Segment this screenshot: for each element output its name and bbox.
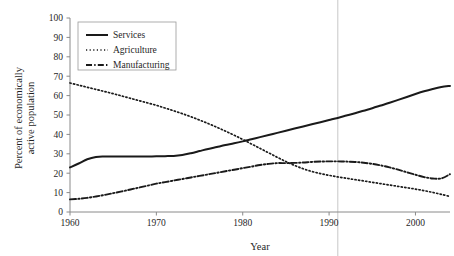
y-tick-label: 40	[54, 130, 64, 140]
y-tick-label: 60	[54, 91, 64, 101]
x-tick-label: 1980	[233, 218, 252, 228]
x-tick-label: 1970	[147, 218, 166, 228]
legend-label-manufacturing: Manufacturing	[113, 60, 170, 70]
legend-label-services: Services	[113, 30, 145, 40]
x-tick-label: 1990	[320, 218, 339, 228]
y-tick-label: 70	[54, 72, 64, 82]
x-tick-label: 2000	[406, 218, 425, 228]
chart-container: 0102030405060708090100 19601970198019902…	[0, 0, 454, 256]
y-tick-label: 50	[54, 110, 64, 120]
y-axis-title-line1: Percent of economically	[13, 66, 24, 169]
y-tick-label: 80	[54, 52, 64, 62]
y-tick-label: 30	[54, 149, 64, 159]
x-tick-label: 1960	[61, 218, 80, 228]
y-tick-label: 0	[58, 207, 63, 217]
line-chart: 0102030405060708090100 19601970198019902…	[0, 0, 454, 256]
y-tick-label: 20	[54, 169, 64, 179]
y-tick-label: 90	[54, 33, 64, 43]
chart-legend: ServicesAgricultureManufacturing	[78, 22, 176, 70]
x-axis-title: Year	[250, 241, 270, 252]
y-tick-label: 10	[54, 188, 64, 198]
y-tick-label: 100	[49, 13, 64, 23]
y-axis-title-line2: active population	[25, 81, 36, 154]
legend-label-agriculture: Agriculture	[113, 45, 157, 55]
